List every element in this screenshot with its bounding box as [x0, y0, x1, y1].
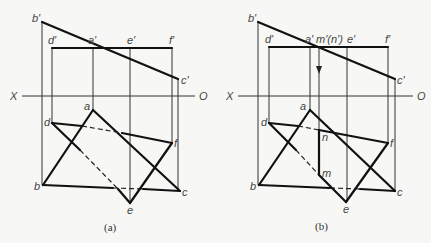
- line-b-c-front: [258, 22, 395, 79]
- label-d-prime: d': [265, 33, 274, 45]
- label-a: a: [300, 100, 306, 112]
- label-c-prime: c': [397, 74, 406, 86]
- label-e: e: [343, 203, 349, 215]
- axis-label-x: X: [9, 90, 18, 102]
- label-m: m: [322, 167, 331, 179]
- label-d: d: [44, 116, 51, 128]
- edge-d-m-hidden: [296, 150, 319, 175]
- edge-a-b: [43, 110, 93, 185]
- label-mn-prime: m'(n'): [316, 33, 343, 45]
- edge-d-f-visible: [52, 123, 82, 126]
- label-e-prime: e': [127, 34, 136, 46]
- axis-label-o: O: [199, 90, 208, 102]
- label-d: d: [261, 116, 268, 128]
- label-c-prime: c': [181, 74, 190, 86]
- edge-b-c-visible-2: [143, 189, 180, 191]
- label-b-prime: b': [248, 12, 257, 24]
- edge-b-c-visible-2: [360, 189, 395, 191]
- line-b-c-front: [42, 22, 178, 79]
- label-e: e: [127, 204, 133, 216]
- label-f-prime: f': [385, 33, 391, 45]
- edge-b-c-visible: [259, 185, 330, 188]
- edge-d-f-hidden: [82, 126, 122, 133]
- label-f: f: [174, 137, 178, 149]
- edge-e-f: [346, 143, 388, 202]
- figure-b: X O b' d' a' m'(n') e' f' c' a d n: [225, 12, 426, 233]
- edge-d-e-visible-2: [118, 189, 130, 203]
- edge-d-f-visible: [269, 123, 298, 126]
- caption-a: (a): [104, 221, 117, 234]
- axis-label-x: X: [225, 90, 234, 102]
- edge-b-c-visible: [43, 185, 113, 188]
- label-f: f: [390, 137, 394, 149]
- label-b: b: [250, 180, 256, 192]
- label-n: n: [322, 131, 328, 143]
- label-b: b: [34, 180, 40, 192]
- label-e-prime: e': [347, 33, 356, 45]
- figure-a: X O b' d' a' e' f' c' a d f: [9, 12, 208, 234]
- edge-e-f: [130, 143, 172, 203]
- edge-n-f-visible: [319, 130, 388, 143]
- axis-label-o: O: [417, 90, 426, 102]
- label-a-prime: a': [88, 34, 97, 46]
- label-a-prime: a': [305, 33, 314, 45]
- arrow-down-icon: [316, 66, 322, 74]
- label-b-prime: b': [32, 12, 41, 24]
- label-c: c: [182, 186, 188, 198]
- caption-b: (b): [315, 220, 328, 233]
- projection-diagram: X O b' d' a' e' f' c' a d f: [0, 0, 431, 243]
- label-d-prime: d': [48, 34, 57, 46]
- edge-d-n-hidden: [298, 126, 319, 130]
- label-a: a: [84, 100, 90, 112]
- label-c: c: [397, 186, 403, 198]
- edge-d-e-hidden: [80, 150, 118, 189]
- label-f-prime: f': [169, 34, 175, 46]
